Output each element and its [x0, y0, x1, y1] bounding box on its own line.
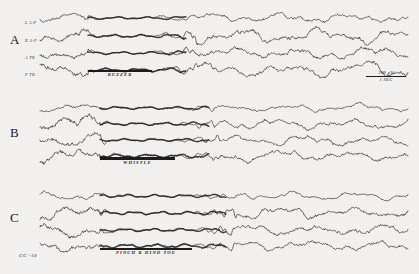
eeg-trace-desynchronized-segment — [88, 34, 186, 39]
eeg-trace — [40, 223, 408, 238]
eeg-trace — [40, 102, 408, 113]
eeg-trace — [40, 207, 408, 221]
eeg-trace — [40, 114, 408, 131]
eeg-trace — [40, 132, 408, 146]
eeg-trace-desynchronized-segment — [100, 106, 209, 109]
eeg-traces-layer — [0, 0, 419, 274]
eeg-trace-desynchronized-segment — [100, 122, 209, 127]
eeg-trace — [40, 61, 408, 78]
eeg-trace-desynchronized-segment — [100, 211, 226, 215]
eeg-trace-desynchronized-segment — [100, 194, 226, 197]
eeg-trace — [40, 149, 408, 164]
eeg-trace-desynchronized-segment — [88, 17, 186, 20]
eeg-trace-desynchronized-segment — [100, 154, 209, 158]
eeg-figure: A L A-P R A-P A TR P TR. BUZZER B WHISTL… — [0, 0, 419, 274]
eeg-trace — [40, 191, 408, 202]
